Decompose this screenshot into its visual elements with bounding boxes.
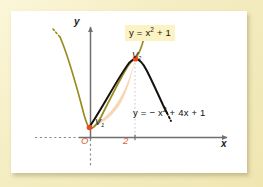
equation-label-upward-parabola: y = x2 + 1 (125, 25, 175, 41)
vertex1-subscript: 1 (101, 122, 104, 128)
origin-label: O (81, 135, 88, 146)
x-tick-label-2: 2 (123, 135, 128, 146)
equation-label-downward-parabola: y = − x2 + 4x + 1 (133, 107, 206, 118)
upward-parabola-dotted-top (53, 29, 60, 37)
figure-container: y x O 2 V1 V2 y = x2 + 1 y = − x2 + 4x +… (0, 0, 263, 187)
equation2-suffix: + 4x + 1 (167, 107, 206, 118)
equation1-suffix: + 1 (154, 27, 171, 38)
vertex1-label: V1 (95, 117, 104, 127)
equation2-prefix: y = − x (133, 107, 163, 118)
vertex2-subscript: 2 (138, 55, 141, 61)
vertex1-marker (87, 125, 93, 131)
y-axis-label: y (74, 16, 80, 27)
x-axis-label: x (221, 138, 227, 149)
equation1-prefix: y = x (129, 27, 150, 38)
vertex2-label: V2 (132, 50, 141, 60)
